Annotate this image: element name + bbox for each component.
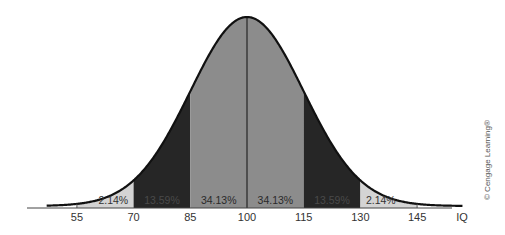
region-85-100 (190, 17, 247, 208)
x-tick-label: 100 (238, 211, 256, 223)
percent-label: 13.59% (144, 194, 180, 206)
region-100-115 (247, 17, 304, 208)
copyright-credit: © Cengage Learning® (483, 120, 492, 200)
percent-label: 2.14% (98, 194, 128, 206)
percent-label: 13.59% (314, 194, 350, 206)
x-axis-label: IQ (456, 211, 468, 223)
x-tick-label: 130 (351, 211, 369, 223)
percent-label: 34.13% (258, 194, 294, 206)
normal-distribution-chart: 2.14%13.59%34.13%34.13%13.59%2.14% 55708… (0, 0, 505, 235)
x-tick-label: 85 (184, 211, 196, 223)
x-tick-label: 145 (408, 211, 426, 223)
percent-label: 2.14% (366, 194, 396, 206)
percent-label: 34.13% (201, 194, 237, 206)
x-tick-labels: 557085100115130145 (71, 211, 427, 223)
x-tick-label: 55 (71, 211, 83, 223)
x-tick-label: 115 (295, 211, 313, 223)
x-tick-label: 70 (127, 211, 139, 223)
